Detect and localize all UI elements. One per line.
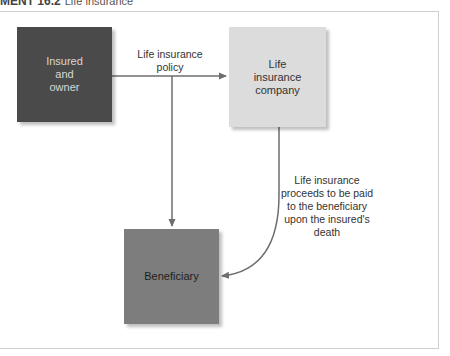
edge-label-line: to the beneficiary [287,200,367,212]
edge-label-policy: Life insurance policy [125,48,215,74]
edge-label-line: proceeds to be paid [281,187,373,199]
edge-label-line: Life insurance [137,48,202,60]
node-label: Beneficiary [144,270,198,283]
node-insured-owner: Insuredandowner [17,27,112,122]
node-beneficiary: Beneficiary [124,229,219,324]
node-label-line: insurance [254,71,302,83]
edge-label-line: policy [157,61,184,73]
edge-label-line: Life insurance [294,174,359,186]
edge-label-line: upon the insured's [284,213,369,225]
node-life-insurance-company: Lifeinsurancecompany [229,27,326,127]
edge-label-line: death [314,226,340,238]
node-label-line: Insured [46,55,83,67]
proceeds-arrow [222,127,279,276]
node-label-line: owner [50,81,80,93]
node-label-line: and [55,68,73,80]
edge-label-proceeds: Life insurance proceeds to be paid to th… [272,174,382,239]
node-label-line: Life [269,58,287,70]
node-label-line: company [255,84,300,96]
